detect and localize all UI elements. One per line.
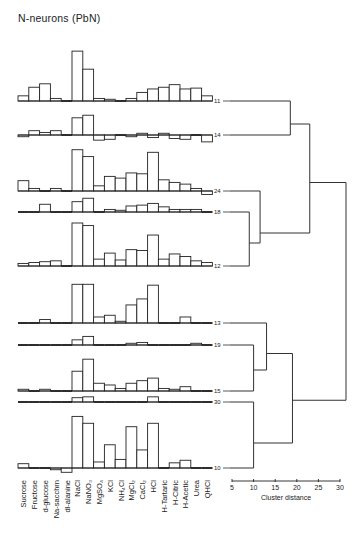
bar [148, 203, 159, 212]
bar [94, 383, 105, 391]
bar [126, 206, 137, 212]
x-axis-title: Cluster distance [261, 494, 311, 501]
bar [72, 150, 83, 191]
bar [72, 371, 83, 391]
bar [72, 416, 83, 468]
bar [202, 96, 213, 101]
bar [29, 131, 40, 135]
axis-tick-label: 20 [293, 484, 301, 491]
dendrogram-histogram-figure: 11142418121319153010 SucroseFructosed-gl… [0, 0, 357, 540]
neuron-label: 11 [214, 98, 221, 104]
bar [148, 89, 159, 101]
bar [18, 464, 29, 468]
neuron-label: 24 [214, 188, 221, 194]
bar [104, 315, 115, 323]
bar [169, 254, 180, 266]
category-label: H-Acetic [181, 480, 190, 509]
category-label: MgCl₂ [127, 480, 136, 501]
bar [104, 135, 115, 139]
histogram-neuron-24: 24 [18, 150, 230, 195]
bar [148, 235, 159, 266]
bar [148, 423, 159, 468]
neuron-label: 30 [214, 399, 221, 405]
axis-tick-label: 10 [250, 484, 258, 491]
category-label: Sucrose [19, 480, 28, 508]
bar [191, 88, 202, 101]
bar [94, 317, 105, 323]
bar [94, 186, 105, 191]
bar [148, 285, 159, 323]
bar [126, 173, 137, 191]
category-label: KCl [106, 480, 115, 492]
category-label: Na-sacchrn [52, 480, 61, 518]
bar [83, 284, 94, 323]
bar [202, 135, 213, 142]
bar [115, 459, 126, 468]
bar [83, 115, 94, 135]
category-label: HCl [149, 480, 158, 493]
category-label: H-Tartaric [160, 480, 169, 513]
dendrogram [230, 101, 346, 468]
histogram-neuron-10: 10 [18, 416, 230, 472]
bar [18, 96, 29, 101]
bar [94, 259, 105, 266]
category-label: H-Citric [171, 480, 180, 505]
bar [40, 320, 51, 323]
histogram-neuron-18: 18 [18, 198, 230, 215]
bar [83, 69, 94, 101]
category-label: MgSO₄ [95, 480, 104, 504]
bar [137, 299, 148, 323]
bar [148, 397, 159, 402]
bar [104, 385, 115, 391]
bar [137, 205, 148, 212]
category-label: d-glucose [41, 480, 50, 513]
bar [83, 157, 94, 191]
bar [137, 251, 148, 266]
bar [72, 118, 83, 135]
bar [180, 257, 191, 266]
bar [126, 383, 137, 391]
bar [158, 207, 169, 212]
neuron-label: 14 [214, 132, 221, 138]
histogram-neuron-14: 14 [18, 115, 230, 142]
bar [29, 87, 40, 101]
bar [180, 184, 191, 191]
bar [148, 378, 159, 391]
bar [61, 468, 72, 472]
bar [72, 223, 83, 266]
bar [72, 51, 83, 101]
bar [202, 191, 213, 194]
bar [94, 462, 105, 468]
bar [126, 305, 137, 323]
category-label: Urea [192, 479, 201, 496]
bar [83, 423, 94, 468]
bar [29, 263, 40, 266]
bar [126, 427, 137, 468]
bar [83, 397, 94, 402]
axis-tick-label: 5 [230, 484, 234, 491]
bar [72, 398, 83, 402]
bar [40, 84, 51, 101]
bar [169, 463, 180, 468]
bar [72, 340, 83, 345]
bar [72, 202, 83, 212]
bar [115, 178, 126, 191]
category-label: NaNO₃ [84, 480, 93, 504]
bar [137, 450, 148, 468]
histogram-neuron-11: 11 [18, 51, 230, 104]
bar [18, 181, 29, 191]
bar [40, 204, 51, 212]
bar [148, 152, 159, 191]
neuron-label: 12 [214, 263, 221, 269]
bar [180, 460, 191, 468]
bar [158, 180, 169, 191]
bar [169, 182, 180, 191]
category-label: Fructose [30, 480, 39, 509]
histogram-neuron-13: 13 [18, 284, 230, 326]
bar [169, 135, 180, 138]
category-label: dl-alanine [63, 480, 72, 513]
histogram-neuron-19: 19 [18, 336, 230, 348]
bar [83, 359, 94, 391]
bar [104, 445, 115, 468]
histogram-neuron-30: 30 [18, 397, 230, 405]
